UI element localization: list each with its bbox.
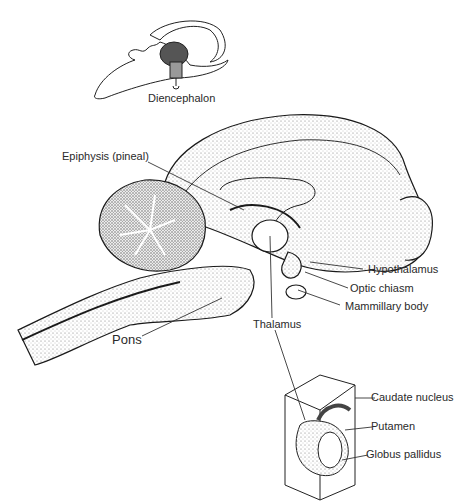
label-epiphysis: Epiphysis (pineal) [62, 150, 149, 163]
label-putamen: Putamen [371, 420, 415, 433]
cerebellum [99, 180, 205, 271]
label-mammillary-body: Mammillary body [345, 300, 428, 313]
brainstem [18, 266, 254, 365]
label-thalamus: Thalamus [253, 318, 301, 331]
label-globus-pallidus: Globus pallidus [366, 448, 441, 461]
label-pons: Pons [112, 333, 142, 346]
label-hypothalamus: Hypothalamus [368, 263, 438, 276]
label-optic-chiasm: Optic chiasm [350, 282, 414, 295]
label-caudate-nucleus: Caudate nucleus [371, 391, 454, 404]
basal-ganglia-inset [285, 375, 355, 500]
label-diencephalon: Diencephalon [148, 92, 215, 105]
diencephalon-inset [94, 21, 228, 99]
